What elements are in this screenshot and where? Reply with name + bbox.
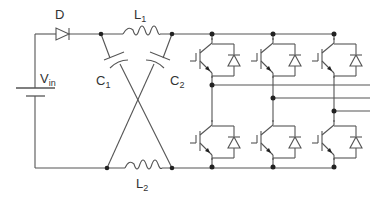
label-l2: L2: [136, 177, 148, 193]
igbt-lower-2: [251, 120, 303, 160]
switches-layer: [0, 0, 383, 201]
label-c2: C2: [170, 74, 184, 90]
label-c1: C1: [96, 74, 110, 90]
label-vin: Vin: [40, 72, 56, 88]
igbt-lower-3: [312, 120, 364, 160]
igbt-lower-1: [190, 120, 242, 160]
igbt-upper-3: [312, 38, 364, 78]
igbt-upper-2: [251, 38, 303, 78]
label-diode: D: [55, 8, 64, 21]
label-l1: L1: [134, 8, 146, 24]
igbt-upper-1: [190, 38, 242, 78]
